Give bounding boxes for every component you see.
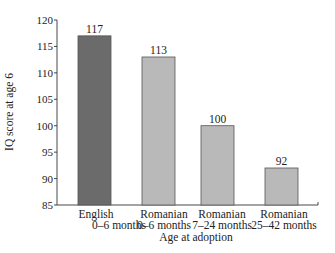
y-tick-label: 85: [42, 199, 54, 211]
bar-value-label: 92: [276, 155, 288, 167]
y-axis-label: IQ score at age 6: [3, 73, 16, 151]
bar-group: 117English0–6 months: [78, 23, 147, 231]
x-tick-label-line2: 7–24 months: [192, 219, 252, 231]
y-tick-label: 90: [42, 173, 54, 185]
y-tick-label: 110: [37, 67, 54, 79]
chart-canvas: 859095100105110115120 117English0–6 mont…: [0, 0, 335, 253]
bar-group: 113Romanian0–6 months: [137, 44, 192, 231]
y-tick-label: 115: [37, 40, 54, 52]
x-tick-label-line2: 0–6 months: [137, 219, 192, 231]
x-tick-label-line2: 25–42 months: [251, 219, 317, 231]
bar: [201, 126, 234, 205]
bar: [78, 36, 111, 205]
bar-value-label: 117: [86, 23, 103, 35]
y-axis: 859095100105110115120: [37, 14, 58, 211]
y-tick-label: 100: [37, 120, 54, 132]
bar-group: 100Romanian7–24 months: [192, 113, 252, 231]
y-tick-label: 105: [37, 93, 54, 105]
bar: [265, 168, 298, 205]
bar: [142, 57, 175, 205]
bar-value-label: 113: [150, 44, 167, 56]
iq-bar-chart: 859095100105110115120 117English0–6 mont…: [0, 0, 335, 253]
bar-group: 92Romanian25–42 months: [251, 155, 317, 231]
y-tick-label: 95: [42, 146, 54, 158]
bar-value-label: 100: [209, 113, 227, 125]
y-tick-label: 120: [37, 14, 54, 26]
x-axis-label: Age at adoption: [159, 231, 233, 244]
bars: 117English0–6 months113Romanian0–6 month…: [78, 23, 317, 231]
